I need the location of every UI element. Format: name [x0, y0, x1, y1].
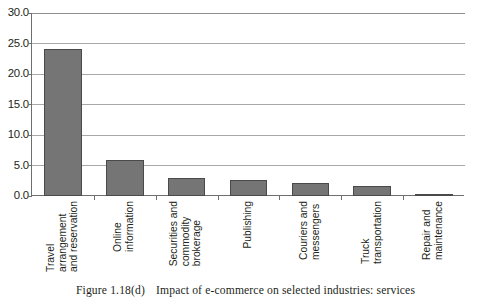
x-axis-label: Publishing — [242, 201, 254, 249]
y-axis-tick — [28, 13, 32, 14]
figure-container: 0.05.010.015.020.025.030.0 Travel arrang… — [0, 0, 491, 305]
y-axis-tick — [28, 196, 32, 197]
bar — [168, 178, 206, 196]
figure-caption-text: Impact of e-commerce on selected industr… — [156, 284, 415, 297]
x-axis-tick — [279, 196, 280, 200]
x-axis-label: Securities and commodity brokerage — [168, 201, 203, 266]
x-axis-label: Truck transportation — [360, 201, 383, 264]
x-axis-tick — [341, 196, 342, 200]
y-axis-tick-label: 0.0 — [0, 190, 29, 201]
y-axis-tick-label: 15.0 — [0, 99, 29, 110]
y-axis-tick — [28, 74, 32, 75]
gridline — [32, 165, 465, 166]
y-axis-tick-label: 5.0 — [0, 160, 29, 171]
x-axis-label: Couriers and messengers — [298, 201, 321, 260]
y-axis-tick-label: 30.0 — [0, 7, 29, 18]
figure-caption-number: Figure 1.18(d) — [76, 284, 145, 297]
x-axis-tick — [94, 196, 95, 200]
x-axis-tick — [403, 196, 404, 200]
figure-caption: Figure 1.18(d)Impact of e-commerce on se… — [0, 284, 491, 297]
y-axis-tick — [28, 104, 32, 105]
bar — [415, 194, 453, 197]
plot-area — [31, 13, 464, 196]
y-axis-tick-label: 10.0 — [0, 129, 29, 140]
y-axis-tick — [28, 43, 32, 44]
y-axis-tick — [28, 135, 32, 136]
gridline — [32, 43, 465, 44]
bar — [106, 160, 144, 196]
x-axis-label: Online information — [112, 201, 135, 252]
x-axis-label: Travel arrangement and reservation — [45, 201, 80, 272]
gridline — [32, 13, 465, 14]
x-axis-tick — [218, 196, 219, 200]
gridline — [32, 104, 465, 105]
bar — [230, 180, 268, 196]
y-axis-tick-label: 20.0 — [0, 68, 29, 79]
gridline — [32, 135, 465, 136]
x-axis-tick — [156, 196, 157, 200]
bar — [292, 183, 330, 196]
y-axis-tick — [28, 165, 32, 166]
bar — [353, 186, 391, 196]
gridline — [32, 74, 465, 75]
x-axis-label: Repair and maintenance — [421, 201, 444, 260]
bar — [44, 49, 82, 196]
y-axis-tick-label: 25.0 — [0, 38, 29, 49]
